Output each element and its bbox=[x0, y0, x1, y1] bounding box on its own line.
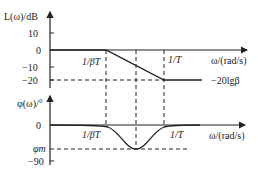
phase-tick-0: 0 bbox=[36, 120, 41, 131]
corner2-label: 1/T bbox=[168, 54, 183, 65]
tick-minus20: −20 bbox=[22, 75, 38, 86]
asymptote-label: −20lgβ bbox=[211, 75, 240, 86]
phase-y-label: φ(ω)/° bbox=[17, 98, 43, 110]
phase-x-label: ω/(rad/s) bbox=[209, 130, 244, 142]
phase-corner2-label: 1/T bbox=[170, 129, 185, 140]
magnitude-x-label: ω/(rad/s) bbox=[211, 55, 246, 67]
corner1-label: 1/βT bbox=[82, 56, 102, 67]
tick-minus10: −10 bbox=[22, 62, 38, 73]
phase-tick-minus90: −90 bbox=[28, 156, 44, 167]
lag-network-bode-diagram: L(ω)/dB 10 0 −10 −20 1/βT 1/T ω/(rad/s) … bbox=[0, 0, 258, 177]
tick-10: 10 bbox=[28, 28, 38, 39]
phase-plot: φ(ω)/° 0 φm −90 1/βT 1/T ω/(rad/s) bbox=[17, 96, 245, 167]
phase-corner1-label: 1/βT bbox=[82, 129, 102, 140]
phi-m-label: φm bbox=[33, 143, 46, 154]
magnitude-y-label: L(ω)/dB bbox=[4, 11, 38, 23]
tick-0: 0 bbox=[36, 45, 41, 56]
